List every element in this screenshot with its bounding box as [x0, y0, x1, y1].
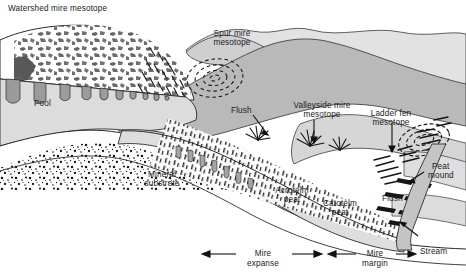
label-mineral-substrate-line2: substrate	[144, 179, 179, 188]
label-ladder-fen-mesotope-line2: mesotope	[372, 118, 409, 127]
label-pool: Pool	[34, 99, 51, 108]
label-spur-mire-mesotope-line1: Spur mire	[214, 29, 251, 38]
label-valleyside-mire-mesotope-line1: Valleyside mire	[293, 101, 350, 110]
label-watershed-mire-mesotope: Watershed mire mesotope	[8, 4, 107, 13]
label-catotelm-peat-line1: Catotelm	[323, 199, 357, 208]
label-acrotelm-peat-line2: peat	[284, 195, 301, 204]
label-mire-expanse-line1: Mire	[255, 249, 272, 258]
label-spur-mire-mesotope-line2: mesotope	[213, 38, 250, 47]
label-flush-right: Flush	[382, 194, 403, 203]
label-acrotelm-peat-line1: Acrotelm	[275, 186, 309, 195]
label-stream: Stream	[420, 247, 447, 256]
label-peat-mound-line2: mound	[428, 171, 454, 180]
figure-canvas: Watershed mire mesotope Spur mire mesoto…	[0, 0, 466, 279]
label-flush-left: Flush	[231, 106, 252, 115]
label-mire-margin-line1: Mire	[367, 249, 384, 258]
label-mineral-substrate-line1: Mineral	[148, 170, 176, 179]
label-peat-mound-line1: Peat	[432, 162, 449, 171]
label-mire-expanse-line2: expanse	[247, 259, 279, 268]
label-valleyside-mire-mesotope-line2: mesotope	[303, 110, 340, 119]
label-catotelm-peat-line2: peat	[332, 208, 349, 217]
label-ladder-fen-mesotope-line1: Ladder fen	[371, 109, 412, 118]
label-mire-margin-line2: margin	[362, 259, 388, 268]
